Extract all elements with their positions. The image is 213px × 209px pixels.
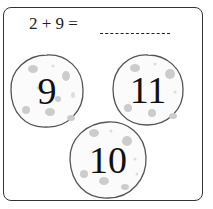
answer-option-cookie[interactable]: 10 xyxy=(67,119,149,201)
option-number: 11 xyxy=(110,52,186,128)
question-equation: 2 + 9 = xyxy=(29,14,78,34)
option-number: 10 xyxy=(67,119,149,201)
answer-option-cookie[interactable]: 11 xyxy=(110,52,186,128)
answer-blank xyxy=(100,33,170,34)
